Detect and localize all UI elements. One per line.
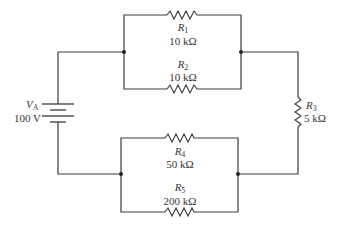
r5-subscript: 5: [181, 186, 185, 195]
junction-node-icon: [236, 172, 240, 176]
branch-r3: [238, 52, 301, 174]
resistor-r2-icon: [167, 85, 199, 93]
source-subscript: A: [33, 103, 39, 112]
battery-va-icon: [42, 104, 74, 122]
r2-value-label: 10 kΩ: [169, 71, 196, 83]
r1-value-label: 10 kΩ: [169, 35, 196, 47]
r1-name: R: [178, 21, 185, 33]
r3-value-label: 5 kΩ: [304, 112, 326, 124]
junction-node-icon: [119, 172, 123, 176]
source-value-label: 100 V: [14, 112, 41, 124]
r5-name: R: [175, 181, 182, 193]
source-name: V: [26, 98, 33, 110]
junction-node-icon: [122, 50, 126, 54]
resistor-r4-icon: [165, 134, 195, 142]
source-wires: [58, 52, 124, 174]
resistor-r3-icon: [295, 97, 301, 127]
r4-value-label: 50 kΩ: [166, 158, 193, 170]
resistor-r1-icon: [167, 11, 199, 19]
r5-value-label: 200 kΩ: [164, 195, 197, 207]
r1-subscript: 1: [184, 26, 188, 35]
resistor-r5-icon: [165, 208, 195, 216]
r4-name: R: [175, 145, 182, 157]
r3-name: R: [306, 99, 313, 111]
r2-name: R: [178, 58, 185, 70]
